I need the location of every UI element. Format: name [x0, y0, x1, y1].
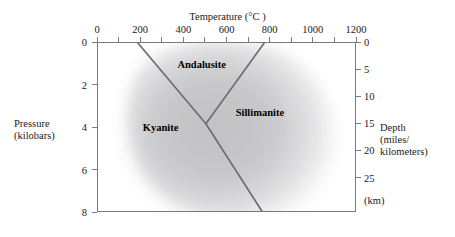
depth-km-tick-label: 5 — [364, 64, 369, 75]
temperature-tick-label: 1200 — [346, 24, 367, 35]
pressure-axis-title: Pressure (kilobars) — [14, 118, 92, 142]
pressure-axis-title-line1: Pressure — [14, 118, 92, 130]
depth-km-tick — [356, 177, 361, 178]
pressure-tick-label: 8 — [82, 207, 87, 218]
depth-km-tick-label: 10 — [364, 91, 375, 102]
depth-km-tick — [356, 96, 361, 97]
depth-km-tick — [356, 123, 361, 124]
plot-area: Andalusite Kyanite Sillimanite — [97, 42, 356, 212]
kilometers-unit-note: (km) — [364, 195, 384, 206]
depth-km-tick-label: 25 — [364, 172, 375, 183]
temperature-tick-label: 400 — [175, 24, 191, 35]
temperature-tick-label: 200 — [132, 24, 148, 35]
pressure-tick-label: 2 — [82, 79, 87, 90]
phase-label-andalusite: Andalusite — [177, 59, 225, 70]
depth-axis-title: Depth (miles/ kilometers) — [380, 122, 455, 158]
phase-diagram-svg — [98, 43, 356, 212]
depth-axis-title-line2: (miles/ — [380, 134, 455, 146]
depth-km-tick-label: 0 — [364, 37, 369, 48]
depth-km-tick — [356, 42, 361, 43]
temperature-tick-label: 1000 — [302, 24, 323, 35]
temperature-tick-label: 600 — [219, 24, 235, 35]
depth-km-tick — [356, 69, 361, 70]
pressure-tick-label: 6 — [82, 164, 87, 175]
phase-diagram-figure: Temperature (°C ) Pressure (kilobars) De… — [0, 0, 455, 237]
pressure-tick-label: 4 — [82, 122, 87, 133]
depth-axis-title-line1: Depth — [380, 122, 455, 134]
pressure-axis-title-line2: (kilobars) — [14, 130, 92, 142]
temperature-tick-label: 0 — [94, 24, 99, 35]
pressure-tick-label: 0 — [82, 37, 87, 48]
depth-km-tick-label: 15 — [364, 118, 375, 129]
temperature-tick-label: 800 — [262, 24, 278, 35]
temperature-axis-title: Temperature (°C ) — [0, 11, 455, 23]
depth-km-tick — [356, 150, 361, 151]
depth-axis-title-line3: kilometers) — [380, 146, 455, 158]
phase-label-sillimanite: Sillimanite — [236, 107, 284, 118]
phase-label-kyanite: Kyanite — [143, 121, 179, 132]
depth-km-tick-label: 20 — [364, 145, 375, 156]
